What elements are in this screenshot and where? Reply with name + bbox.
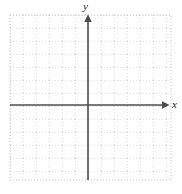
y-axis-label: y (83, 1, 88, 12)
x-axis-label: x (172, 99, 177, 110)
grid-fill (10, 15, 171, 180)
coordinate-plane-canvas (0, 0, 182, 194)
coordinate-plane-figure: y x (0, 0, 182, 194)
grid-area (10, 15, 171, 180)
